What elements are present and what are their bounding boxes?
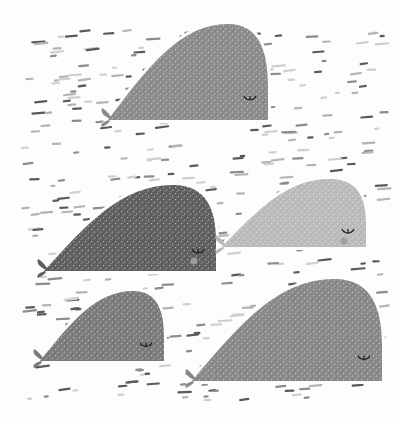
sea-dash — [367, 68, 377, 71]
sea-dash — [267, 262, 279, 265]
sea-dash — [335, 92, 340, 94]
sea-dash — [145, 373, 151, 376]
sea-dash — [203, 399, 211, 402]
sea-dash — [44, 395, 49, 398]
sea-dash — [144, 175, 155, 178]
sea-dash — [70, 90, 76, 92]
whale-cheek — [191, 258, 198, 265]
sea-dash — [240, 155, 246, 157]
sea-dash — [21, 147, 29, 149]
sea-dash — [379, 111, 388, 114]
sea-dash — [54, 79, 59, 81]
sea-dash — [203, 395, 208, 397]
sea-dash — [29, 178, 39, 181]
sea-dash — [322, 60, 327, 63]
sea-dash — [31, 130, 41, 133]
sea-dash — [203, 337, 210, 339]
sea-dash — [210, 186, 216, 189]
sea-dash — [372, 260, 380, 262]
sea-dash — [50, 185, 55, 187]
sea-dash — [279, 182, 288, 185]
sea-dash — [84, 100, 92, 103]
sea-dash — [250, 129, 259, 132]
sea-dash — [182, 396, 189, 399]
sea-dash — [112, 66, 118, 68]
sea-dash — [232, 313, 244, 316]
sea-dash — [42, 304, 52, 307]
sea-dash — [288, 78, 296, 81]
sea-dash — [380, 35, 385, 38]
whale-illustration — [0, 0, 394, 424]
whale-cheek — [341, 238, 348, 245]
sea-dash — [347, 163, 356, 166]
sea-dash — [52, 143, 61, 146]
sea-dash — [168, 173, 175, 176]
sea-dash — [73, 213, 81, 216]
sea-dash — [285, 389, 295, 392]
sea-dash — [32, 234, 38, 237]
sea-dash — [58, 35, 65, 38]
sea-dash — [27, 397, 32, 400]
sea-dash — [306, 164, 316, 167]
sea-dash — [118, 393, 125, 396]
sea-dash — [236, 192, 245, 195]
sea-dash — [238, 274, 244, 277]
